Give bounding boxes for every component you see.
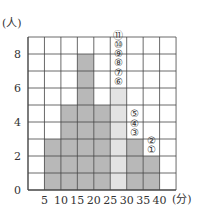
histogram-bar bbox=[44, 139, 60, 190]
x-tick-label: 40 bbox=[153, 194, 167, 207]
x-tick-label: 20 bbox=[87, 194, 101, 207]
x-tick-label: 30 bbox=[120, 194, 134, 207]
circled-number-label: ⑤ bbox=[130, 108, 139, 119]
x-tick-label: 25 bbox=[103, 194, 117, 207]
y-tick-label: 0 bbox=[14, 184, 21, 197]
y-axis-ticks: 02468 bbox=[14, 48, 21, 197]
y-tick-label: 2 bbox=[14, 150, 21, 163]
x-tick-label: 10 bbox=[54, 194, 68, 207]
histogram-bar bbox=[94, 105, 110, 190]
histogram-bar bbox=[127, 139, 143, 190]
x-tick-label: 15 bbox=[70, 194, 84, 207]
histogram-bar bbox=[61, 105, 77, 190]
x-axis-label: (分) bbox=[172, 193, 192, 206]
histogram-chart: ①②③④⑤⑥⑦⑧⑨⑩⑪ 02468 510152025303540 (人) (分… bbox=[0, 0, 197, 214]
x-tick-label: 35 bbox=[136, 194, 150, 207]
x-axis-ticks: 510152025303540 bbox=[41, 194, 167, 207]
y-tick-label: 6 bbox=[14, 82, 21, 95]
y-tick-label: 4 bbox=[14, 116, 21, 129]
y-tick-label: 8 bbox=[14, 48, 21, 61]
y-axis-label: (人) bbox=[2, 17, 22, 30]
circled-number-label: ② bbox=[147, 135, 156, 146]
x-tick-label: 5 bbox=[41, 194, 48, 207]
circled-number-label: ⑪ bbox=[113, 30, 123, 41]
